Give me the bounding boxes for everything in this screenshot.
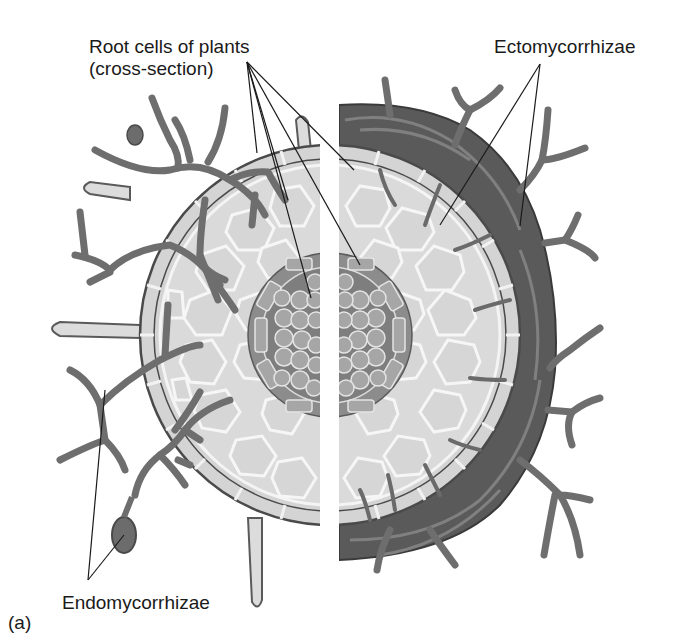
panel-label: (a) xyxy=(8,612,31,634)
root-cells-label-line1: Root cells of plants xyxy=(89,36,250,58)
root-cells-label: Root cells of plants (cross-section) xyxy=(89,36,250,80)
root-cells-label-line2: (cross-section) xyxy=(89,58,250,80)
endomycorrhizae-label: Endomycorrhizae xyxy=(62,592,210,614)
ectomycorrhizae-label: Ectomycorrhizae xyxy=(494,36,636,58)
